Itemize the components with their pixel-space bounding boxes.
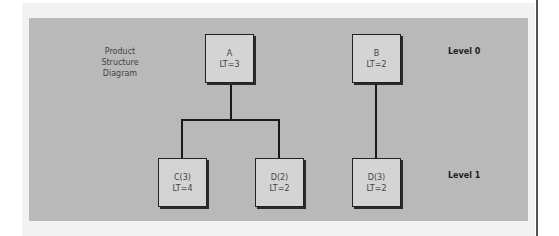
node-c: C(3) LT=4: [158, 158, 207, 207]
connector-a-to-c: [181, 119, 183, 159]
level-1-label: Level 1: [448, 171, 480, 180]
page-margin-rule: [536, 0, 538, 236]
node-lead-time: LT=2: [366, 59, 386, 70]
node-name: B: [374, 48, 380, 59]
node-name: A: [227, 48, 232, 59]
node-d2: D(2) LT=2: [255, 158, 304, 207]
node-b: B LT=2: [352, 34, 401, 83]
node-name: C(3): [174, 172, 191, 183]
node-a: A LT=3: [205, 34, 254, 83]
diagram-title: Product Structure Diagram: [90, 46, 150, 79]
connector-a-bar: [181, 119, 280, 121]
title-line: Diagram: [90, 68, 150, 79]
connector-a-stem: [230, 82, 232, 121]
title-line: Product: [90, 46, 150, 57]
level-0-label: Level 0: [448, 47, 480, 56]
node-name: D(2): [271, 172, 289, 183]
connector-a-to-d2: [278, 119, 280, 159]
node-name: D(3): [368, 172, 386, 183]
node-d3: D(3) LT=2: [352, 158, 401, 207]
node-lead-time: LT=4: [172, 183, 192, 194]
node-lead-time: LT=2: [366, 183, 386, 194]
connector-b-to-d3: [375, 82, 377, 159]
node-lead-time: LT=2: [269, 183, 289, 194]
node-lead-time: LT=3: [219, 59, 239, 70]
title-line: Structure: [90, 57, 150, 68]
